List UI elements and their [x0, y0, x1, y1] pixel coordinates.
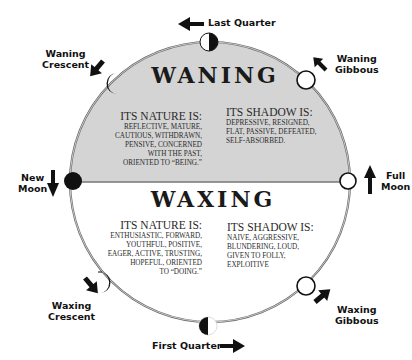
phase-label-waning-crescent: Waning Crescent	[42, 48, 89, 70]
waning-heading: WANING	[150, 62, 280, 88]
phase-label-text: Waning	[337, 53, 377, 64]
phase-label-new-moon: New Moon	[18, 172, 47, 194]
waxing-shadow-line: BLUNDERING, LOUD,	[227, 243, 342, 252]
first-quarter-moon-icon	[199, 317, 217, 335]
waxing-nature-line: TO “DOING.”	[92, 268, 202, 277]
waxing-nature-title: ITS NATURE IS:	[92, 219, 202, 232]
arrow-icon	[364, 165, 376, 194]
phase-label-text: Crescent	[48, 311, 95, 322]
phase-label-text: Waxing	[337, 304, 377, 315]
phase-label-text: Waxing	[52, 300, 92, 311]
waxing-nature-line: YOUTHFUL, POSITIVE,	[92, 241, 202, 250]
waning-shadow-title: ITS SHADOW IS:	[226, 106, 341, 119]
phase-label-text: Waning	[46, 48, 86, 59]
waning-shadow-line: DEPRESSIVE, RESIGNED,	[226, 119, 341, 128]
phase-label-text: Full	[386, 170, 405, 181]
phase-label-text: Moon	[381, 181, 410, 192]
phase-label-full-moon: Full Moon	[381, 170, 410, 192]
phase-label-text: Last Quarter	[208, 17, 276, 28]
waxing-shadow-line: GIVEN TO FOLLY,	[227, 252, 342, 261]
phase-label-last-quarter: Last Quarter	[208, 17, 276, 28]
waxing-shadow-line: EXPLOITIVE	[227, 261, 342, 270]
waxing-heading: WAXING	[148, 186, 278, 212]
waxing-nature-block: ITS NATURE IS: ENTHUSIASTIC, FORWARD, YO…	[92, 219, 202, 277]
arrow-icon	[47, 170, 59, 197]
arrow-icon	[220, 339, 245, 353]
waxing-shadow-block: ITS SHADOW IS: NAIVE, AGGRESSIVE, BLUNDE…	[227, 221, 342, 270]
phase-label-first-quarter: First Quarter	[152, 340, 222, 351]
phase-label-text: First Quarter	[152, 340, 222, 351]
waxing-shadow-line: NAIVE, AGGRESSIVE,	[227, 234, 342, 243]
arrow-icon	[178, 17, 204, 31]
waning-nature-block: ITS NATURE IS: REFLECTIVE, MATURE, CAUTI…	[92, 110, 202, 168]
last-quarter-moon-icon	[200, 33, 218, 51]
waxing-gibbous-moon-icon	[297, 277, 315, 295]
arrow-icon	[309, 53, 330, 74]
waning-nature-line: PENSIVE, CONCERNED	[92, 141, 202, 150]
phase-label-text: Moon	[18, 183, 47, 194]
waning-nature-line: CAUTIOUS, WITHDRAWN,	[92, 132, 202, 141]
phase-label-text: New	[21, 172, 44, 183]
phase-label-text: Gibbous	[335, 64, 379, 75]
waning-gibbous-moon-icon	[297, 71, 315, 89]
waning-shadow-block: ITS SHADOW IS: DEPRESSIVE, RESIGNED, FLA…	[226, 106, 341, 146]
waning-shadow-line: FLAT, PASSIVE, DEFEATED,	[226, 128, 341, 137]
waning-nature-line: WITH THE PAST,	[92, 150, 202, 159]
waxing-shadow-title: ITS SHADOW IS:	[227, 221, 342, 234]
phase-label-waxing-crescent: Waxing Crescent	[48, 300, 95, 322]
phase-label-waxing-gibbous: Waxing Gibbous	[335, 304, 379, 326]
phase-label-text: Gibbous	[335, 315, 379, 326]
full-moon-icon	[340, 173, 356, 189]
lunar-cycle-diagram: WANING WAXING ITS NATURE IS: REFLECTIVE,…	[0, 0, 412, 360]
waning-shadow-line: SELF-ABSORBED.	[226, 137, 341, 146]
waxing-nature-line: EAGER, ACTIVE, TRUSTING,	[92, 250, 202, 259]
arrow-icon	[80, 274, 104, 298]
waning-nature-title: ITS NATURE IS:	[92, 110, 202, 123]
phase-label-waning-gibbous: Waning Gibbous	[335, 53, 379, 75]
phase-label-text: Crescent	[42, 59, 89, 70]
waxing-nature-line: ENTHUSIASTIC, FORWARD,	[92, 232, 202, 241]
waning-nature-line: ORIENTED TO “BEING.”	[92, 159, 202, 168]
waxing-nature-line: HOPEFUL, ORIENTED	[92, 259, 202, 268]
waning-nature-line: REFLECTIVE, MATURE,	[92, 123, 202, 132]
new-moon-icon	[64, 172, 82, 190]
